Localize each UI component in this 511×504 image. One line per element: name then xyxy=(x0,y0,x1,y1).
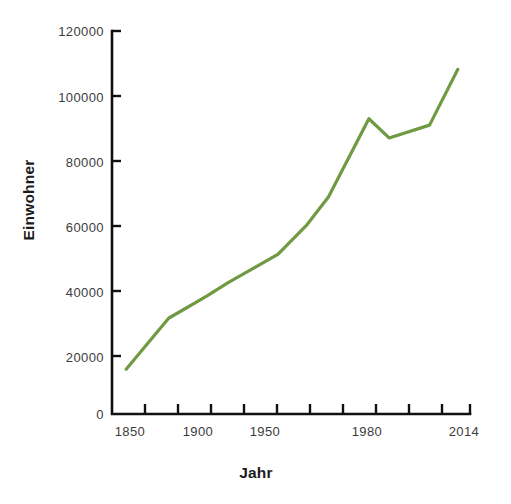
x-tick-label: 2014 xyxy=(449,424,480,439)
y-tick-marks xyxy=(112,31,121,356)
x-tick-label: 1950 xyxy=(250,424,281,439)
y-tick-label: 80000 xyxy=(66,155,104,170)
y-tick-labels: 120000 100000 80000 60000 40000 20000 0 xyxy=(58,24,104,422)
x-tick-label: 1900 xyxy=(183,424,214,439)
x-tick-marks xyxy=(145,404,470,414)
population-line-chart: Einwohner 120000 100000 80000 60000 4000… xyxy=(0,0,511,504)
chart-container: Einwohner 120000 100000 80000 60000 4000… xyxy=(0,0,511,504)
x-tick-labels: 1850 1900 1950 1980 2014 xyxy=(115,424,480,439)
data-series-line xyxy=(126,69,458,369)
y-tick-label: 120000 xyxy=(58,24,104,39)
axis-lines xyxy=(112,31,470,414)
y-tick-label: 20000 xyxy=(66,350,104,365)
y-tick-label: 40000 xyxy=(66,285,104,300)
y-axis-title: Einwohner xyxy=(20,159,37,240)
y-tick-label: 0 xyxy=(96,407,104,422)
y-tick-label: 100000 xyxy=(58,90,104,105)
x-tick-label: 1850 xyxy=(115,424,146,439)
y-tick-label: 60000 xyxy=(66,220,104,235)
x-tick-label: 1980 xyxy=(352,424,383,439)
x-axis-title: Jahr xyxy=(239,464,273,481)
